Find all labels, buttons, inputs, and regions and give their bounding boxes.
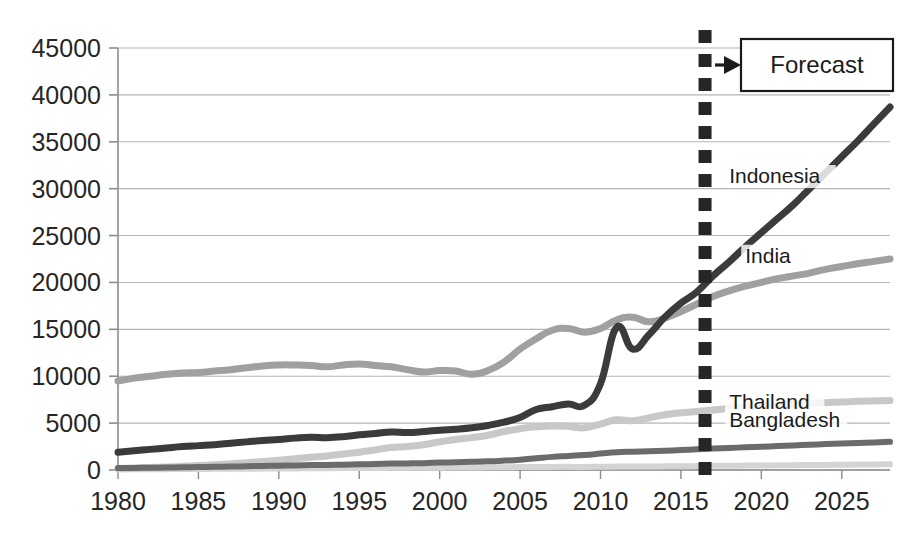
y-tick-label: 40000 <box>31 81 101 109</box>
divider-dash <box>699 126 712 139</box>
y-tick-labels-group: 0500010000150002000025000300003500040000… <box>31 34 101 484</box>
y-tick-label: 0 <box>87 456 101 484</box>
y-tick-label: 15000 <box>31 315 101 343</box>
y-tick-marks-group <box>109 48 118 470</box>
divider-dash <box>699 174 712 187</box>
series-label-india: India <box>745 244 791 267</box>
x-tick-label: 2020 <box>734 487 790 515</box>
divider-dash <box>699 462 712 475</box>
x-tick-label: 2025 <box>814 487 870 515</box>
divider-dash <box>699 198 712 211</box>
y-tick-label: 10000 <box>31 362 101 390</box>
divider-dash <box>699 342 712 355</box>
divider-dash <box>699 222 712 235</box>
x-tick-label: 1980 <box>90 487 146 515</box>
x-tick-label: 2000 <box>412 487 468 515</box>
x-tick-label: 1985 <box>171 487 227 515</box>
divider-dash <box>699 294 712 307</box>
chart-canvas: IndonesiaIndiaThailandBangladesh 0500010… <box>0 0 905 536</box>
y-tick-label: 5000 <box>45 409 101 437</box>
divider-dash <box>699 78 712 91</box>
forecast-arrowhead-icon <box>724 56 741 74</box>
x-tick-label: 1990 <box>251 487 307 515</box>
series-labels-group: IndonesiaIndiaThailandBangladesh <box>725 164 847 432</box>
series-label-bangladesh: Bangladesh <box>729 408 840 431</box>
y-tick-label: 20000 <box>31 268 101 296</box>
forecast-callout: Forecast <box>715 39 893 91</box>
divider-dash <box>699 150 712 163</box>
divider-dash <box>699 414 712 427</box>
divider-dash <box>699 30 712 43</box>
series-line-india <box>118 259 890 381</box>
x-tick-label: 1995 <box>331 487 387 515</box>
x-tick-label: 2015 <box>653 487 709 515</box>
divider-dash <box>699 270 712 283</box>
y-tick-label: 45000 <box>31 34 101 62</box>
forecast-label: Forecast <box>770 51 864 78</box>
divider-dash <box>699 366 712 379</box>
series-label-indonesia: Indonesia <box>729 164 820 187</box>
line-chart: IndonesiaIndiaThailandBangladesh 0500010… <box>0 0 905 536</box>
divider-dash <box>699 54 712 67</box>
x-tick-label: 2010 <box>573 487 629 515</box>
divider-dash <box>699 318 712 331</box>
y-tick-label: 30000 <box>31 175 101 203</box>
x-tick-labels-group: 1980198519901995200020052010201520202025 <box>90 487 869 515</box>
divider-dash <box>699 438 712 451</box>
divider-dash <box>699 246 712 259</box>
x-tick-label: 2005 <box>492 487 548 515</box>
y-tick-label: 35000 <box>31 128 101 156</box>
divider-dash <box>699 102 712 115</box>
divider-dash <box>699 390 712 403</box>
y-tick-label: 25000 <box>31 222 101 250</box>
